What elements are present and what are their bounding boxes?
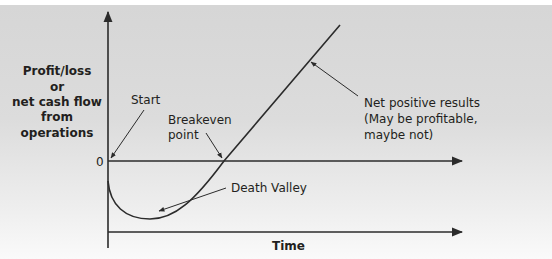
- y-axis-label-line: or: [50, 80, 64, 94]
- zero-label: 0: [96, 155, 104, 169]
- diagram: 0 Profit/loss or net cash flow from oper…: [0, 0, 552, 259]
- breakeven-arrow: [206, 133, 222, 158]
- y-axis-label-line: Profit/loss: [23, 64, 92, 78]
- start-label: Start: [131, 93, 161, 107]
- net-positive-label: Net positive results: [364, 96, 480, 110]
- y-axis-label-line: net cash flow: [12, 95, 102, 109]
- y-axis-label-line: operations: [21, 126, 94, 140]
- y-axis-label-line: from: [41, 110, 73, 124]
- breakeven-label: Breakeven: [168, 113, 232, 127]
- time-axis-label: Time: [272, 239, 305, 253]
- death-valley-arrow: [159, 188, 226, 211]
- death-valley-label: Death Valley: [231, 181, 307, 195]
- breakeven-label: point: [168, 128, 199, 142]
- start-arrow: [111, 110, 144, 158]
- net-positive-label: maybe not): [364, 128, 433, 142]
- y-axis-label: Profit/loss or net cash flow from operat…: [12, 64, 102, 140]
- net-positive-arrow: [311, 62, 358, 96]
- net-positive-label: (May be profitable,: [364, 112, 478, 126]
- diagram-canvas: 0 Profit/loss or net cash flow from oper…: [0, 0, 552, 259]
